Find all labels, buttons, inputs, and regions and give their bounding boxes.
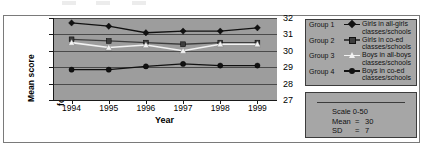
series-line bbox=[72, 23, 258, 33]
data-point bbox=[218, 63, 223, 68]
x-axis-label: Year bbox=[53, 115, 276, 125]
legend-item-label: Girls in all-girls classes/schools bbox=[362, 20, 416, 35]
series-layer bbox=[53, 18, 276, 100]
data-point bbox=[106, 39, 111, 44]
legend-marker-diamond-icon bbox=[344, 20, 360, 28]
x-tick-mark bbox=[109, 100, 110, 104]
legend-item-label: Boys in co-ed classes/schools bbox=[362, 67, 416, 82]
stats-box: Scale 0-50 Mean=30 SD=7 bbox=[305, 92, 417, 138]
legend-group-name: Group 1 bbox=[309, 21, 342, 29]
series-line bbox=[72, 64, 258, 70]
stats-divider bbox=[317, 102, 405, 103]
y-tick-mark bbox=[49, 100, 53, 101]
stats-sd-eq: = bbox=[355, 126, 365, 136]
stats-mean-line: Mean=30 bbox=[306, 117, 418, 127]
x-tick-mark bbox=[257, 100, 258, 104]
x-tick-mark bbox=[183, 100, 184, 104]
stats-sd-value: 7 bbox=[365, 126, 369, 135]
stats-sd-key: SD bbox=[332, 126, 355, 136]
legend-marker-square-icon bbox=[344, 36, 360, 44]
x-tick-label: 1999 bbox=[234, 104, 280, 113]
data-point bbox=[106, 23, 112, 29]
stats-scale-label: Scale 0-50 bbox=[332, 107, 368, 116]
legend-marker-circle-icon bbox=[344, 67, 360, 75]
data-point bbox=[69, 20, 75, 26]
y-axis-label: Mean score for 53 studies bbox=[6, 35, 22, 121]
stats-mean-value: 30 bbox=[365, 117, 373, 126]
data-point bbox=[143, 30, 149, 36]
x-tick-mark bbox=[220, 100, 221, 104]
legend-group-name: Group 2 bbox=[309, 37, 342, 45]
line-chart: Mean score for 53 studies 272829303132 1… bbox=[3, 16, 293, 142]
legend-item-label: Boys in all-boys classes/schools bbox=[362, 51, 416, 66]
data-point bbox=[254, 25, 260, 31]
legend-item-group-4[interactable]: Group 4Boys in co-ed classes/schools bbox=[306, 67, 416, 83]
legend-marker-triangle-icon bbox=[344, 51, 360, 59]
legend-group-name: Group 3 bbox=[309, 52, 342, 60]
data-point bbox=[106, 67, 111, 72]
legend: Group 1Girls in all-girls classes/school… bbox=[305, 19, 417, 86]
series-group-2 bbox=[69, 37, 260, 47]
data-point bbox=[180, 61, 185, 66]
legend-group-name: Group 4 bbox=[309, 68, 342, 76]
legend-item-label: Girls in co-ed classes/schools bbox=[362, 36, 416, 51]
stats-scale-line: Scale 0-50 bbox=[306, 107, 418, 117]
y-axis-label-line1: Mean score bbox=[26, 35, 36, 121]
x-tick-mark bbox=[146, 100, 147, 104]
series-group-1 bbox=[69, 20, 261, 36]
data-point bbox=[143, 64, 148, 69]
stats-sd-line: SD=7 bbox=[306, 126, 418, 136]
data-point bbox=[255, 63, 260, 68]
data-point bbox=[180, 28, 186, 34]
legend-item-group-2[interactable]: Group 2Girls in co-ed classes/schools bbox=[306, 36, 416, 52]
series-group-4 bbox=[69, 61, 260, 72]
stats-mean-eq: = bbox=[355, 117, 365, 127]
x-tick-mark bbox=[72, 100, 73, 104]
figure-root: Mean score for 53 studies 272829303132 1… bbox=[0, 0, 426, 147]
legend-item-group-3[interactable]: Group 3Boys in all-boys classes/schools bbox=[306, 51, 416, 67]
top-edge-artifact bbox=[62, 1, 180, 5]
data-point bbox=[181, 42, 186, 47]
legend-item-group-1[interactable]: Group 1Girls in all-girls classes/school… bbox=[306, 20, 416, 36]
series-group-3 bbox=[68, 39, 260, 53]
stats-mean-key: Mean bbox=[332, 117, 355, 127]
data-point bbox=[217, 28, 223, 34]
data-point bbox=[69, 67, 74, 72]
